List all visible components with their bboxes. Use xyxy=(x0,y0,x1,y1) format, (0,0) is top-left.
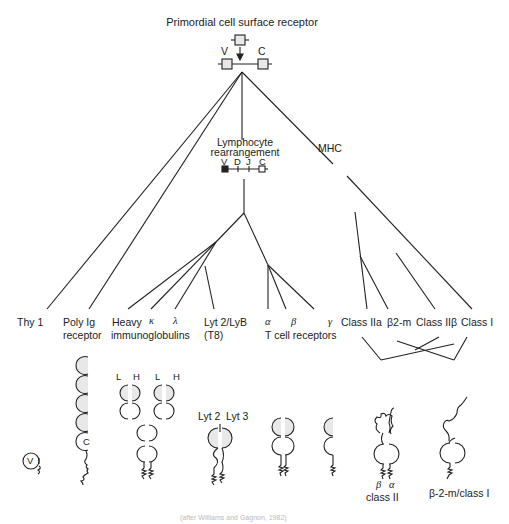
diagram-title: Primordial cell surface receptor xyxy=(166,16,318,28)
ig-chain-l1: L xyxy=(116,371,121,383)
ig-chain-h1: H xyxy=(133,371,140,383)
lyt3-label: Lyt 3 xyxy=(226,410,248,422)
mhc-class2-structure xyxy=(374,408,399,479)
mhc-class1-structure xyxy=(440,397,467,479)
class1-label: β-2-m/class I xyxy=(429,487,489,499)
leaf-class-i: Class I xyxy=(461,316,493,328)
mhc-label: MHC xyxy=(318,142,342,154)
leaf-class-iia: Class IIa xyxy=(341,316,382,328)
leaf-immunoglobulins: immunoglobulins xyxy=(111,329,190,341)
class2-alpha-label: α xyxy=(389,479,395,491)
immunoglobulin-structure xyxy=(120,385,174,479)
leaf-lyt2-1: Lyt 2/LyB xyxy=(204,316,247,328)
segment-c: C xyxy=(259,156,266,168)
leaf-tcr-alpha: α xyxy=(265,316,271,328)
leaf-lyt2-2: (T8) xyxy=(204,329,223,341)
lyt2-label: Lyt 2 xyxy=(198,410,220,422)
class2-beta-label: β xyxy=(376,479,381,491)
figure-caption: (after Williams and Gagnon, 1982) xyxy=(180,514,287,521)
segment-d: D xyxy=(234,156,241,168)
poly-ig-structure xyxy=(76,357,88,486)
lyt2-lyt3-structure xyxy=(208,424,232,485)
leaf-kappa: κ xyxy=(149,315,154,327)
segment-j: J xyxy=(246,156,251,168)
ig-chain-l2: L xyxy=(155,371,160,383)
leaf-b2m: β2-m xyxy=(387,316,411,328)
leaf-lambda: λ xyxy=(173,315,178,327)
thy1-domain-label: V xyxy=(27,455,33,467)
leaf-poly-ig-2: receptor xyxy=(63,329,102,341)
segment-v: V xyxy=(221,156,227,168)
primordial-c-label: C xyxy=(258,45,266,57)
leaf-tcr-gamma: γ xyxy=(328,316,332,328)
leaf-heavy: Heavy xyxy=(112,316,142,328)
evolution-tree-diagram xyxy=(0,0,509,524)
leaf-poly-ig-1: Poly Ig xyxy=(63,316,95,328)
primordial-v-label: V xyxy=(221,45,228,57)
leaf-thy1: Thy 1 xyxy=(17,316,43,328)
tcr-alpha-beta-structure xyxy=(272,418,294,476)
leaf-tcr-beta: β xyxy=(291,316,296,328)
poly-ig-c-label: C xyxy=(83,436,90,448)
leaf-tcr-label: T cell receptors xyxy=(265,329,337,341)
leaf-class-iib: Class IIβ xyxy=(416,316,457,328)
class2-label: class II xyxy=(366,491,399,503)
tcr-gamma-structure xyxy=(324,418,335,476)
ig-chain-h2: H xyxy=(173,371,180,383)
